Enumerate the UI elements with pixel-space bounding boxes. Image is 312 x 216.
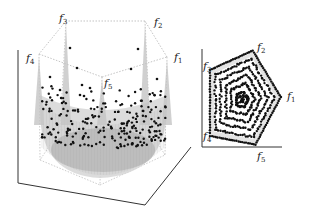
label-f3: f3 <box>202 60 212 74</box>
label-f4: f4 <box>25 52 35 66</box>
label-f2: f2 <box>153 16 163 30</box>
label-f3: f3 <box>58 12 68 26</box>
projection-plot-svg: f2 f3 f1 f4 f5 <box>190 0 312 216</box>
label-f5: f5 <box>103 77 113 91</box>
label-f1: f1 <box>286 90 296 104</box>
x-axis <box>18 183 145 205</box>
label-f2: f2 <box>256 41 266 55</box>
label-f1: f1 <box>173 51 183 65</box>
surface-plot-3d: f3 f2 f1 f4 f5 <box>0 0 200 216</box>
projection-plot-2d: f2 f3 f1 f4 f5 <box>190 0 312 216</box>
label-f5: f5 <box>256 150 266 164</box>
surface-plot-svg: f3 f2 f1 f4 f5 <box>0 0 200 216</box>
